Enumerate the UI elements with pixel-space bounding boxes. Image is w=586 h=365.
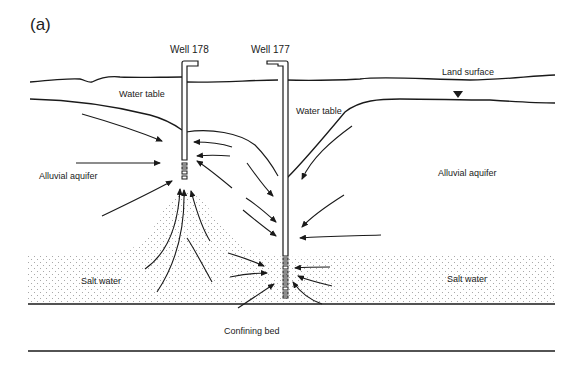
water-table-label-right: Water table [296, 106, 342, 116]
alluvial-aquifer-label-right: Alluvial aquifer [438, 168, 497, 178]
salt-water-label-left: Salt water [81, 276, 121, 286]
salt-water-zone [28, 190, 555, 303]
water-table-marker-icon [453, 91, 463, 98]
water-table-cone-178 [186, 131, 278, 176]
well-178-label: Well 178 [170, 44, 209, 55]
groundwater-diagram: (a) Well 178 Well 177 Land surface Water… [0, 0, 586, 365]
water-table-line-left [30, 99, 182, 130]
land-surface-label: Land surface [442, 67, 494, 77]
confining-bed-label: Confining bed [224, 326, 280, 336]
well-178 [182, 61, 198, 179]
water-table-label-left: Water table [119, 89, 165, 99]
well-178-screen [182, 163, 187, 179]
panel-label: (a) [30, 15, 51, 34]
well-177-label: Well 177 [251, 44, 290, 55]
alluvial-aquifer-label-left: Alluvial aquifer [39, 171, 98, 181]
salt-water-label-right: Salt water [447, 274, 487, 284]
